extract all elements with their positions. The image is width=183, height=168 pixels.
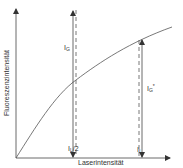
- label-ig-sub: G: [66, 46, 70, 52]
- label-il-half: IL/2: [68, 145, 79, 153]
- label-il: IL: [137, 146, 142, 154]
- label-il-sub: L: [139, 148, 142, 154]
- label-ig: IG: [64, 44, 70, 52]
- x-axis-label: Laserintensität: [78, 159, 124, 166]
- label-ig-star: IG*: [147, 84, 155, 93]
- fluorescence-saturation-diagram: [0, 0, 183, 168]
- label-il-half-tail: /2: [73, 145, 79, 152]
- y-axis-label: Fluoreszenzintensität: [3, 50, 10, 116]
- label-ig-star-sup: *: [153, 83, 155, 89]
